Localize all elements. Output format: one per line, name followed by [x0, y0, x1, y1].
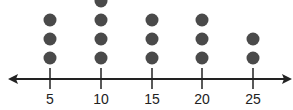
tick-label-20: 20: [194, 91, 210, 107]
data-dot: [44, 14, 57, 27]
data-dot: [146, 52, 159, 65]
data-dot: [95, 14, 108, 27]
tick-label-10: 10: [93, 91, 109, 107]
data-dot: [95, 0, 108, 8]
tick-label-5: 5: [46, 91, 54, 107]
data-dot: [95, 52, 108, 65]
tick-label-15: 15: [144, 91, 160, 107]
dot-plot: 5 10 15 20 25: [0, 0, 293, 110]
data-dot: [196, 14, 209, 27]
dots: [44, 0, 260, 65]
data-dot: [247, 52, 260, 65]
data-dot: [95, 33, 108, 46]
data-dot: [146, 14, 159, 27]
data-dot: [196, 33, 209, 46]
tick-labels: 5 10 15 20 25: [46, 91, 261, 107]
data-dot: [196, 52, 209, 65]
tick-label-25: 25: [245, 91, 261, 107]
data-dot: [146, 33, 159, 46]
data-dot: [44, 33, 57, 46]
data-dot: [44, 52, 57, 65]
data-dot: [247, 33, 260, 46]
